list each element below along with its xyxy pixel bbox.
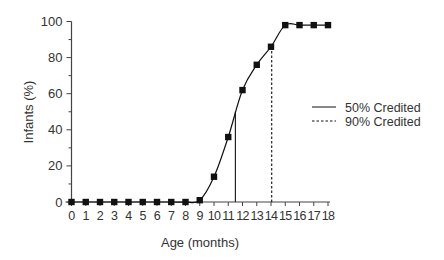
- x-tick-label: 3: [111, 209, 118, 223]
- data-point-square-marker: [211, 174, 217, 180]
- data-point-square-marker: [97, 199, 103, 205]
- x-tick-label: 18: [322, 209, 335, 223]
- data-point-square-marker: [197, 197, 203, 203]
- y-tick-label: 60: [48, 86, 62, 101]
- legend-label-90: 90% Credited: [345, 115, 421, 129]
- y-axis-label: Infants (%): [21, 81, 36, 144]
- x-tick-label: 4: [125, 209, 132, 223]
- data-point-square-marker: [268, 44, 274, 50]
- y-tick-label: 20: [48, 158, 62, 173]
- x-tick-label: 14: [265, 209, 278, 223]
- x-tick-label: 0: [68, 209, 75, 223]
- y-tick-label: 80: [48, 50, 62, 65]
- legend-label-50: 50% Credited: [345, 101, 421, 115]
- data-point-square-marker: [83, 199, 89, 205]
- y-axis: 020406080100: [41, 14, 72, 210]
- data-point-square-marker: [154, 199, 160, 205]
- data-point-square-marker: [111, 199, 117, 205]
- data-series: [68, 22, 331, 205]
- data-point-square-marker: [168, 199, 174, 205]
- x-tick-label: 11: [222, 209, 234, 223]
- legend: 50% Credited 90% Credited: [312, 101, 421, 129]
- x-tick-label: 7: [168, 209, 175, 223]
- data-point-square-marker: [311, 22, 317, 28]
- data-point-square-marker: [68, 199, 74, 205]
- data-point-square-marker: [140, 199, 146, 205]
- y-tick-label: 0: [55, 195, 62, 210]
- data-point-square-marker: [239, 87, 245, 93]
- data-point-square-marker: [125, 199, 131, 205]
- x-tick-label: 8: [182, 209, 189, 223]
- x-tick-label: 10: [208, 209, 221, 223]
- data-point-square-marker: [282, 22, 288, 28]
- x-tick-label: 13: [250, 209, 263, 223]
- x-tick-label: 16: [293, 209, 306, 223]
- y-tick-label: 100: [41, 14, 63, 29]
- series-line: [72, 23, 329, 202]
- data-point-square-marker: [325, 22, 331, 28]
- x-axis-label: Age (months): [161, 235, 239, 250]
- x-tick-label: 9: [197, 209, 204, 223]
- x-axis: 0123456789101112131415161718: [66, 202, 335, 223]
- x-tick-label: 17: [307, 209, 320, 223]
- y-tick-label: 40: [48, 122, 62, 137]
- x-tick-label: 1: [83, 209, 90, 223]
- data-point-square-marker: [182, 199, 188, 205]
- line-chart: 020406080100 012345678910111213141516171…: [0, 0, 444, 260]
- data-point-square-marker: [254, 62, 260, 68]
- data-point-square-marker: [296, 22, 302, 28]
- x-tick-label: 6: [154, 209, 161, 223]
- x-tick-label: 5: [140, 209, 147, 223]
- x-tick-label: 12: [236, 209, 249, 223]
- data-point-square-marker: [225, 134, 231, 140]
- x-tick-label: 15: [279, 209, 292, 223]
- x-tick-label: 2: [97, 209, 104, 223]
